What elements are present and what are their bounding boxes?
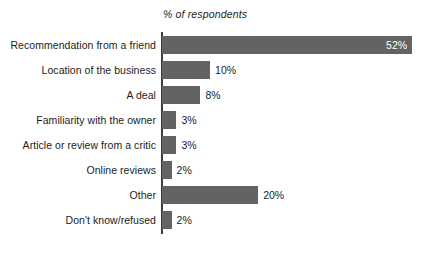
category-label: Article or review from a critic — [23, 139, 156, 151]
bar — [162, 111, 176, 129]
axis-title: % of respondents — [163, 8, 247, 20]
bar — [162, 136, 176, 154]
bar: 52% — [162, 36, 412, 54]
bar-value-label: 8% — [205, 89, 220, 101]
bar-container: 8% — [162, 86, 221, 104]
bar-value-label: 52% — [386, 39, 412, 51]
bar-row: Location of the business10% — [0, 57, 445, 82]
category-label: Familiarity with the owner — [36, 114, 156, 126]
bar — [162, 186, 258, 204]
bar-chart: % of respondents Recommendation from a f… — [0, 0, 445, 253]
bar-row: Online reviews2% — [0, 157, 445, 182]
bar — [162, 161, 172, 179]
bar-row: Don't know/refused2% — [0, 207, 445, 232]
bar-container: 2% — [162, 211, 192, 229]
category-label: Don't know/refused — [66, 214, 156, 226]
bar-value-label: 10% — [215, 64, 236, 76]
bar-container: 3% — [162, 136, 197, 154]
bar-value-label: 3% — [181, 114, 196, 126]
bar-row: Article or review from a critic3% — [0, 132, 445, 157]
bar-container: 52% — [162, 36, 412, 54]
bar-container: 20% — [162, 186, 284, 204]
bar — [162, 61, 210, 79]
bar-container: 10% — [162, 61, 236, 79]
category-label: Location of the business — [42, 64, 156, 76]
bar-row: Familiarity with the owner3% — [0, 107, 445, 132]
bar-value-label: 2% — [177, 164, 192, 176]
bar-value-label: 20% — [263, 189, 284, 201]
bar-row: A deal8% — [0, 82, 445, 107]
category-label: Online reviews — [86, 164, 156, 176]
plot-area: Recommendation from a friend52%Location … — [0, 32, 445, 240]
category-label: Recommendation from a friend — [10, 39, 156, 51]
bar — [162, 211, 172, 229]
bar-row: Other20% — [0, 182, 445, 207]
bar-container: 3% — [162, 111, 197, 129]
bar-container: 2% — [162, 161, 192, 179]
category-label: A deal — [127, 89, 157, 101]
bar-value-label: 3% — [181, 139, 196, 151]
bar-value-label: 2% — [177, 214, 192, 226]
bar-row: Recommendation from a friend52% — [0, 32, 445, 57]
category-label: Other — [129, 189, 156, 201]
bar — [162, 86, 200, 104]
